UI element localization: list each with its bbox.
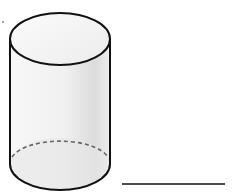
stray-dot (2, 21, 4, 23)
cylinder-diagram (0, 0, 244, 192)
cylinder-top-face (10, 13, 110, 65)
